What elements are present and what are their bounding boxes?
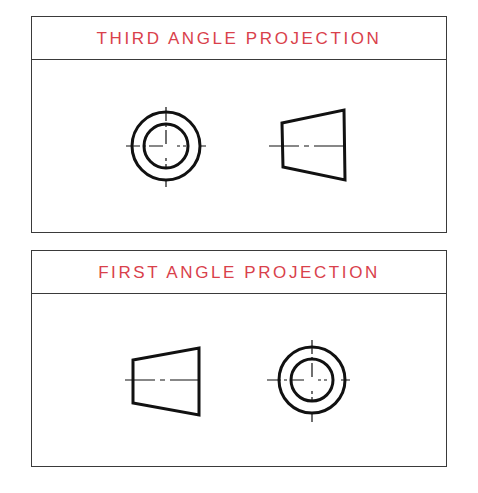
projection-symbols	[0, 0, 478, 493]
first-angle-circle-view-icon	[267, 340, 350, 422]
third-angle-frustum-view-icon	[269, 110, 351, 180]
third-angle-circle-view-icon	[126, 107, 206, 187]
first-angle-frustum-view-icon	[125, 348, 206, 415]
